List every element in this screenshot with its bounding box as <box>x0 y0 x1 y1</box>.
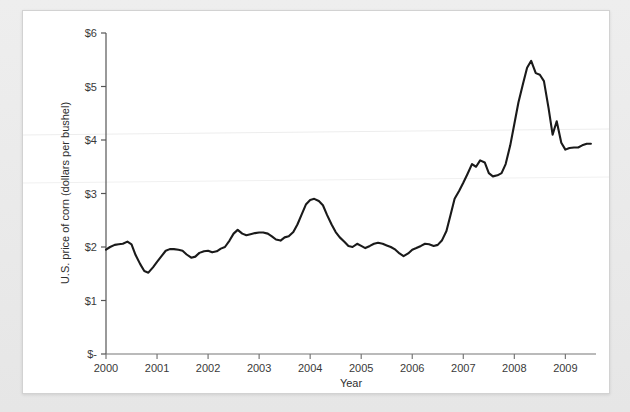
page-background: $-$1$2$3$4$5$6 2000200120022003200420052… <box>0 0 630 412</box>
y-axis-title: U.S. price of corn (dollars per bushel) <box>59 102 71 284</box>
x-axis-tick-labels: 2000200120022003200420052006200720082009 <box>94 362 578 374</box>
x-tick-label: 2006 <box>400 362 424 374</box>
x-tick-label: 2000 <box>94 362 118 374</box>
x-axis-ticks <box>106 354 565 359</box>
x-tick-label: 2009 <box>553 362 577 374</box>
y-tick-label: $1 <box>85 295 97 307</box>
line-chart: $-$1$2$3$4$5$6 2000200120022003200420052… <box>23 11 609 393</box>
y-axis-tick-labels: $-$1$2$3$4$5$6 <box>85 27 98 360</box>
corn-price-line <box>106 61 591 273</box>
x-tick-label: 2007 <box>451 362 475 374</box>
y-tick-label: $- <box>87 348 97 360</box>
y-axis-ticks <box>101 33 106 354</box>
x-tick-label: 2005 <box>349 362 373 374</box>
x-axis: 2000200120022003200420052006200720082009 <box>94 354 596 374</box>
x-axis-title: Year <box>340 377 363 389</box>
y-tick-label: $5 <box>85 81 97 93</box>
y-tick-label: $2 <box>85 241 97 253</box>
x-tick-label: 2004 <box>298 362 322 374</box>
y-tick-label: $3 <box>85 188 97 200</box>
y-axis: $-$1$2$3$4$5$6 <box>85 27 106 360</box>
x-tick-label: 2008 <box>502 362 526 374</box>
y-tick-label: $4 <box>85 134 97 146</box>
y-tick-label: $6 <box>85 27 97 39</box>
x-tick-label: 2002 <box>196 362 220 374</box>
figure-card: $-$1$2$3$4$5$6 2000200120022003200420052… <box>22 10 610 394</box>
chart-canvas: $-$1$2$3$4$5$6 2000200120022003200420052… <box>23 11 609 393</box>
x-tick-label: 2001 <box>145 362 169 374</box>
x-tick-label: 2003 <box>247 362 271 374</box>
scan-artifact-lines <box>23 129 609 183</box>
